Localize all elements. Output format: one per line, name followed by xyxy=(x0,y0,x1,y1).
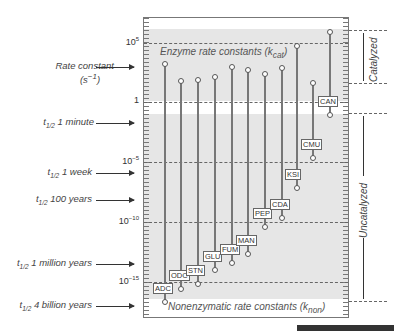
uncatalyzed-bottom-line xyxy=(349,301,387,302)
point-kcat-cmu xyxy=(310,80,316,86)
point-knon-fum xyxy=(229,260,235,266)
stem-pep xyxy=(264,74,266,226)
enzyme-band-label: Enzyme rate constants (kcat) xyxy=(160,46,287,60)
point-knon-glu xyxy=(212,267,218,273)
catalyzed-label: Catalyzed xyxy=(368,38,379,82)
halflife-1-week: t1/2 1 week xyxy=(20,166,92,179)
footer-bar xyxy=(297,325,394,331)
catalyzed-bottom-line xyxy=(349,83,387,84)
halflife-1-week-arrow xyxy=(96,173,134,174)
y-tick-1: 1 xyxy=(99,95,139,105)
halflife-100-years-arrow xyxy=(96,200,134,201)
stem-adc xyxy=(164,64,166,303)
uncatalyzed-label: Uncatalyzed xyxy=(358,183,369,238)
gridline-1e-10 xyxy=(144,222,348,223)
point-kcat-adc xyxy=(162,61,168,67)
y-tick-1e-5: 10−5 xyxy=(99,155,139,166)
point-kcat-odc xyxy=(178,78,184,84)
stem-ksi xyxy=(296,46,298,189)
enzyme-label-cda: CDA xyxy=(270,199,290,210)
gridline-1e-5 xyxy=(144,162,348,163)
uncatalyzed-top-line xyxy=(349,113,387,114)
point-kcat-ksi xyxy=(294,43,300,49)
enzyme-label-stn: STN xyxy=(186,265,205,276)
halflife-1-million-years: t1/2 1 million years xyxy=(0,257,92,270)
y-tick-1e5: 105 xyxy=(99,36,139,47)
stem-odc xyxy=(180,81,182,289)
enzyme-label-ksi: KSI xyxy=(285,169,301,180)
enzyme-label-cmu: CMU xyxy=(301,139,322,150)
enzyme-label-man: MAN xyxy=(236,235,257,246)
uncatalyzed-arrow-upper xyxy=(363,116,364,176)
right-tick-marks xyxy=(343,18,348,317)
uncatalyzed-arrow-lower xyxy=(363,238,364,299)
point-kcat-glu xyxy=(212,74,218,80)
gridline-1e-15 xyxy=(144,282,348,283)
stem-cda xyxy=(281,68,283,218)
catalyzed-top-line xyxy=(349,30,387,31)
halflife-1-million-years-arrow xyxy=(96,264,134,265)
left-tick-marks xyxy=(144,18,149,317)
halflife-4-billion-years-arrow xyxy=(96,306,134,307)
rate-constant-unit: (s−1) xyxy=(66,72,114,85)
rate-constant-label: Rate constant xyxy=(28,60,114,71)
point-knon-pep xyxy=(262,224,268,230)
nonenzymatic-band-label: Nonenzymatic rate constants (knon) xyxy=(168,301,325,315)
enzyme-label-can: CAN xyxy=(318,96,338,107)
catalyzed-arrow xyxy=(363,33,364,81)
stem-glu xyxy=(214,77,216,270)
halflife-100-years: t1/2 100 years xyxy=(10,193,92,206)
halflife-1-minute-arrow xyxy=(96,123,134,124)
catalyzed-band xyxy=(144,29,348,101)
halflife-4-billion-years: t1/2 4 billion years xyxy=(0,299,92,312)
gridline-1e5 xyxy=(144,43,348,44)
halflife-1-minute: t1/2 1 minute xyxy=(20,116,94,129)
enzyme-label-adc: ADC xyxy=(153,283,173,294)
y-tick-1e-15: 10−15 xyxy=(99,275,139,286)
stem-fum xyxy=(231,67,233,263)
plot-area: Enzyme rate constants (kcat) Nonenzymati… xyxy=(143,17,349,318)
y-tick-1e-10: 10−10 xyxy=(99,215,139,226)
point-kcat-man xyxy=(245,67,251,73)
rate-constant-arrow xyxy=(96,67,134,68)
stem-man xyxy=(247,70,249,255)
stem-stn xyxy=(197,80,199,284)
